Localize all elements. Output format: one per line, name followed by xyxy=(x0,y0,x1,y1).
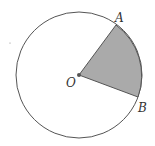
label-o: O xyxy=(66,76,76,90)
label-b: B xyxy=(137,101,147,115)
circle-sector-diagram: O A B xyxy=(0,0,155,146)
center-point-o xyxy=(77,73,81,77)
label-a: A xyxy=(114,11,124,25)
stray-mark xyxy=(9,42,10,43)
shaded-sector-aob xyxy=(79,25,142,97)
